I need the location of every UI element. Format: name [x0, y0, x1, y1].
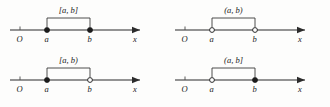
axis-label: x [132, 34, 137, 44]
point-a-label: a [210, 84, 214, 94]
axis-arrow-icon [132, 27, 140, 33]
origin-label: O [17, 34, 23, 44]
point-b-label: b [88, 34, 92, 44]
axis-arrow-icon [297, 77, 305, 83]
interval-label: [a, b] [59, 5, 78, 15]
origin-label: O [182, 84, 188, 94]
endpoint-a-open [210, 28, 215, 33]
axis-label: x [297, 84, 302, 94]
panel-open-interval: (a, b) O a b x [165, 0, 330, 53]
axis-arrow-icon [297, 27, 305, 33]
interval-notation-figure: [a, b] O a b x (a, b) O a b x [0, 0, 330, 107]
endpoint-b-open [253, 28, 258, 33]
point-b-label: b [253, 84, 257, 94]
endpoint-b-closed [88, 28, 93, 33]
origin-label: O [17, 84, 23, 94]
point-b-label: b [253, 34, 257, 44]
point-a-label: a [210, 34, 214, 44]
endpoint-a-closed [45, 28, 50, 33]
interval-label: (a, b] [224, 55, 243, 65]
endpoint-a-open [210, 78, 215, 83]
panel-half-open-left: (a, b] O a b x [165, 54, 330, 107]
origin-label: O [182, 34, 188, 44]
point-a-label: a [45, 84, 49, 94]
endpoint-a-closed [45, 78, 50, 83]
endpoint-b-open [88, 78, 93, 83]
endpoint-b-closed [253, 78, 258, 83]
axis-arrow-icon [132, 77, 140, 83]
point-b-label: b [88, 84, 92, 94]
axis-label: x [297, 34, 302, 44]
interval-label: (a, b) [224, 5, 243, 15]
axis-label: x [132, 84, 137, 94]
panel-half-open-right: [a, b) O a b x [0, 54, 165, 107]
point-a-label: a [45, 34, 49, 44]
panel-closed-interval: [a, b] O a b x [0, 0, 165, 53]
interval-label: [a, b) [59, 55, 78, 65]
